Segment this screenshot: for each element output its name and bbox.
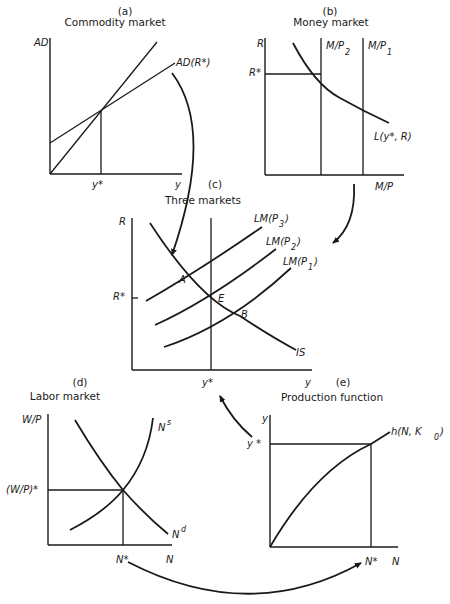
panel-c-point-a: A <box>178 274 186 285</box>
panel-a-y-axis-label: AD <box>33 37 49 48</box>
panel-d-y-axis-label: W/P <box>22 414 42 425</box>
arrow-a-to-c <box>172 73 194 255</box>
panel-b-mp1-label: M/P <box>368 40 387 51</box>
panel-e-title: Production function <box>281 391 383 403</box>
connecting-arrows <box>128 73 361 594</box>
panel-c-lm2-curve <box>155 249 276 325</box>
panel-e-curve-sub: 0 <box>434 433 439 442</box>
panel-c-lm1-label: LM(P <box>283 256 308 267</box>
panel-e-ystar-label: y * <box>246 438 261 449</box>
panel-d-nstar-label: N* <box>116 554 128 565</box>
panel-e-x-axis-label: N <box>392 556 400 567</box>
panel-d-labor-demand-curve <box>75 420 168 534</box>
panel-a-x-axis-label: y <box>174 179 182 190</box>
panel-b-title: Money market <box>293 16 368 28</box>
panel-e-curve-label: h(N, K <box>391 426 423 437</box>
panel-e-letter: (e) <box>336 376 351 388</box>
panel-a-ad-curve <box>50 63 175 143</box>
panel-a-title: Commodity market <box>64 16 165 28</box>
panel-c-point-b: B <box>241 309 248 320</box>
panel-a-ystar-label: y* <box>91 179 103 190</box>
arrow-d-to-e <box>128 562 361 594</box>
panel-d-ns-label: N <box>158 422 166 433</box>
panel-e-nstar-label: N* <box>365 556 377 567</box>
panel-c-y-axis-label: R <box>119 216 126 227</box>
arrow-b-to-c <box>333 184 354 243</box>
panel-c-lm3-label: LM(P <box>254 213 279 224</box>
panel-e-y-axis-label: y <box>261 413 269 424</box>
panel-a-commodity-market: (a) Commodity market AD y AD(R*) y* <box>33 5 210 190</box>
panel-c-title: Three markets <box>164 194 241 206</box>
panel-a-ad-label: AD(R*) <box>175 57 210 68</box>
panel-e-production-curve <box>270 432 390 547</box>
panel-b-x-axis-label: M/P <box>375 181 394 192</box>
panel-d-nd-label: N <box>172 529 180 540</box>
panel-b-mp2-sub: 2 <box>345 48 350 57</box>
panel-d-title: Labor market <box>30 390 100 402</box>
panel-d-wpstar-label: (W/P)* <box>6 484 38 495</box>
panel-c-point-e: E <box>218 293 225 304</box>
panel-b-y-axis-label: R <box>257 38 264 49</box>
panel-c-lm3-curve <box>146 227 262 301</box>
panel-c-three-markets: (c) Three markets R y R* y* IS LM(P 3 ) … <box>113 178 318 388</box>
panel-b-rstar-label: R* <box>249 67 261 78</box>
panel-c-letter: (c) <box>208 178 222 190</box>
panel-b-mp2-label: M/P <box>326 40 345 51</box>
macro-diagram: (a) Commodity market AD y AD(R*) y* (b) … <box>0 0 450 604</box>
panel-c-x-axis-label: y <box>304 377 312 388</box>
panel-c-lm2-label: LM(P <box>266 236 291 247</box>
panel-c-lm3-close: ) <box>284 213 289 224</box>
panel-d-ns-sup: s <box>167 418 171 427</box>
panel-b-mp1-sub: 1 <box>387 48 392 57</box>
arrow-e-to-c <box>220 396 252 437</box>
panel-c-lm3-sub: 3 <box>279 220 284 229</box>
panel-d-letter: (d) <box>73 376 88 388</box>
panel-e-curve-close: ) <box>439 426 444 437</box>
panel-b-money-demand-curve <box>293 43 389 123</box>
panel-d-labor-market: (d) Labor market W/P N (W/P)* N* N d N s <box>6 376 187 565</box>
panel-b-money-market: (b) Money market R M/P R* M/P 2 M/P 1 L(… <box>249 5 412 192</box>
panel-b-demand-label: L(y*, R) <box>374 131 412 142</box>
panel-c-is-label: IS <box>296 347 306 358</box>
panel-d-nd-sup: d <box>181 525 187 534</box>
panel-c-lm2-sub: 2 <box>291 243 296 252</box>
panel-e-production-function: (e) Production function y N y * N* h(N, … <box>246 376 444 567</box>
panel-c-lm1-close: ) <box>313 256 318 267</box>
panel-c-rstar-label: R* <box>113 291 125 302</box>
panel-c-lm1-sub: 1 <box>308 263 313 272</box>
panel-c-lm2-close: ) <box>296 236 301 247</box>
panel-d-x-axis-label: N <box>166 554 174 565</box>
panel-c-ystar-label: y* <box>201 377 213 388</box>
